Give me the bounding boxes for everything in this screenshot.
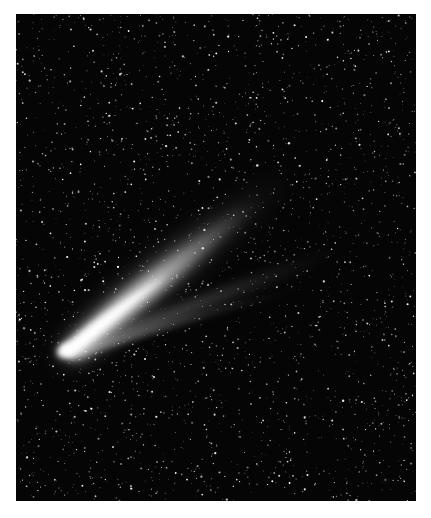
comet-photo <box>16 14 416 501</box>
star-field <box>16 14 416 501</box>
comet-illustration <box>16 14 416 501</box>
